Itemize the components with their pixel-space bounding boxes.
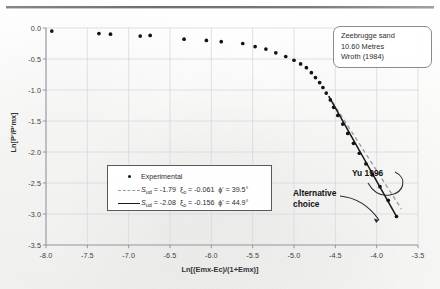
x-tick-label: -6.0 <box>197 251 225 260</box>
y-tick-label: -2.5 <box>12 179 41 188</box>
legend-sud-value-1: = -1.79 <box>152 186 176 194</box>
x-tick-label: -7.0 <box>115 251 143 260</box>
annotation-alt-line-1: Alternative <box>293 188 336 199</box>
y-tick-label: -1.5 <box>12 117 41 126</box>
x-tick-label: -5.5 <box>239 251 267 260</box>
annotation-alt-line-2: choice <box>293 199 336 210</box>
y-tick-label: 0.0 <box>12 24 41 33</box>
x-tick-label: -6.5 <box>156 251 184 260</box>
legend-xi-value-2: = -0.156 <box>186 199 214 207</box>
legend-label-fit-dashed: Sud = -1.79 ξo = -0.061 ϕ' = 39.5° <box>141 186 248 195</box>
x-tick-label: -8.0 <box>32 251 60 260</box>
y-tick-label: -3.5 <box>12 241 41 250</box>
legend-label-fit-solid: Sud = -2.08 ξo = -0.156 ϕ' = 44.9° <box>141 199 248 208</box>
y-tick-label: -0.5 <box>12 55 41 64</box>
y-axis-title: Ln[P'/P'mx] <box>9 93 18 173</box>
annotation-yu-1996: Yu 1996 <box>352 168 383 178</box>
y-tick-label: -2.0 <box>12 148 41 157</box>
note-line-3: Wroth (1984) <box>341 52 426 63</box>
annotation-note-box: Zeebrugge sand 10.60 Metres Wroth (1984) <box>333 26 432 68</box>
note-line-1: Zeebrugge sand <box>341 31 426 42</box>
y-tick-label: -3.0 <box>12 210 41 219</box>
annotation-alternative-choice: Alternative choice <box>293 188 336 210</box>
x-tick-label: -5.0 <box>280 251 308 260</box>
legend-marker-dashed-line <box>117 190 141 191</box>
chart-legend: Experimental Sud = -1.79 ξo = -0.061 ϕ' … <box>107 165 272 211</box>
legend-xi-value-1: = -0.061 <box>186 186 214 194</box>
legend-row-experimental: Experimental <box>108 170 271 184</box>
x-tick-label: -3.5 <box>404 251 432 260</box>
note-line-2: 10.60 Metres <box>341 42 426 53</box>
x-tick-label: -7.5 <box>73 251 101 260</box>
legend-marker-solid-line <box>117 203 141 204</box>
legend-row-fit-solid: Sud = -2.08 ξo = -0.156 ϕ' = 44.9° <box>108 197 271 211</box>
y-tick-label: -1.0 <box>12 86 41 95</box>
legend-row-fit-dashed: Sud = -1.79 ξo = -0.061 ϕ' = 39.5° <box>108 184 271 198</box>
legend-phi-value-1: = 39.5° <box>224 186 249 194</box>
x-tick-label: -4.5 <box>321 251 349 260</box>
legend-marker-dot <box>117 175 141 178</box>
legend-phi-value-2: = 44.9° <box>224 199 249 207</box>
legend-label-experimental: Experimental <box>141 173 182 181</box>
fit-line-dashed <box>329 96 402 209</box>
legend-sud-value-2: = -2.08 <box>152 199 176 207</box>
x-axis-title: Ln[(Emx-Ec)/(1+Emx)] <box>0 265 440 274</box>
x-tick-label: -4.0 <box>363 251 391 260</box>
